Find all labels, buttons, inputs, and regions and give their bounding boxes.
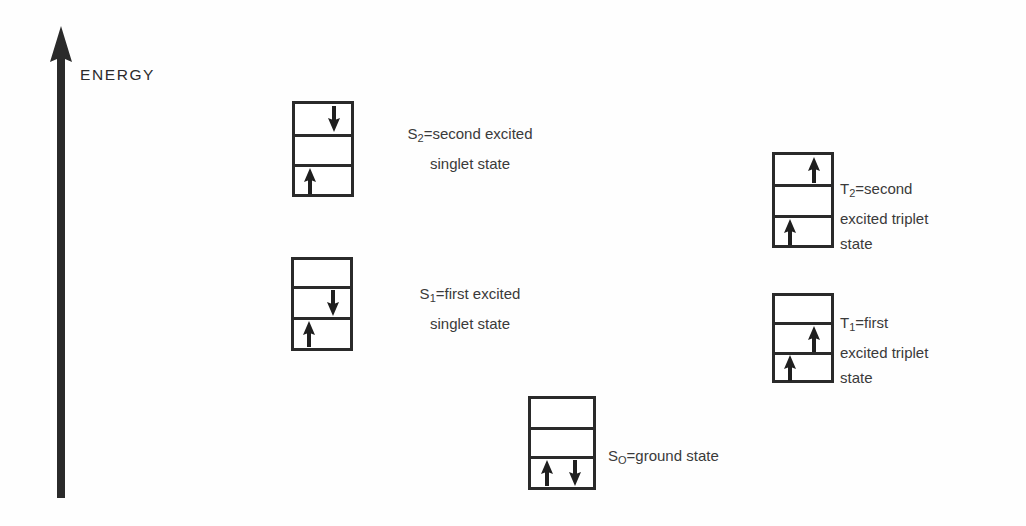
spin-down-arrow [325, 290, 341, 316]
orbital-box-s0 [528, 396, 596, 490]
caption-s2-text: =second excited [424, 125, 533, 142]
level-s0 [528, 396, 596, 490]
level-s2 [292, 101, 354, 197]
caption-t2-line3: state [840, 231, 1020, 256]
caption-t1-symbol: T [840, 314, 849, 331]
caption-s1-line2: singlet state [360, 311, 580, 336]
spin-up-arrow [806, 157, 822, 183]
energy-axis-arrow [44, 26, 78, 498]
caption-t1-line2: excited triplet [840, 340, 1020, 365]
orbital-box-s2 [292, 101, 354, 197]
spin-up-arrow [782, 355, 798, 381]
orbital-row-t1-bottom [775, 355, 831, 380]
caption-t2-line1: T2=second [840, 176, 1020, 206]
level-t2 [772, 152, 834, 248]
caption-t1-text: =first [855, 314, 888, 331]
caption-t2-line2: excited triplet [840, 206, 1020, 231]
spin-up-arrow [302, 168, 318, 194]
caption-s0-subscript: O [618, 454, 627, 466]
orbital-row-s2-middle [295, 137, 351, 167]
orbital-row-s1-top [294, 260, 350, 289]
caption-t2-text: =second [855, 180, 912, 197]
caption-s0-text: =ground state [627, 447, 719, 464]
orbital-row-s2-top [295, 104, 351, 137]
caption-t2-symbol: T [840, 180, 849, 197]
caption-t1: T1=first excited triplet state [840, 310, 1020, 390]
orbital-box-t2 [772, 152, 834, 248]
orbital-row-s0-middle [531, 430, 593, 459]
orbital-box-s1 [291, 257, 353, 351]
spin-up-arrow [539, 460, 555, 486]
caption-s1: S1=first excited singlet state [360, 281, 580, 336]
orbital-row-t2-middle [775, 187, 831, 218]
caption-s0: SO=ground state [608, 443, 868, 473]
caption-t1-line3: state [840, 365, 1020, 390]
caption-s0-symbol: S [608, 447, 618, 464]
orbital-row-t1-middle [775, 325, 831, 355]
level-s1 [291, 257, 353, 351]
caption-s1-line1: S1=first excited [360, 281, 580, 311]
spin-up-arrow [301, 321, 317, 347]
caption-t1-line1: T1=first [840, 310, 1020, 340]
caption-s0-line1: SO=ground state [608, 443, 868, 473]
energy-axis-label: ENERGY [80, 66, 155, 84]
spin-down-arrow [567, 460, 583, 486]
orbital-box-t1 [772, 293, 834, 383]
orbital-row-s1-bottom [294, 320, 350, 348]
caption-s2-line2: singlet state [360, 151, 580, 176]
spin-down-arrow [326, 106, 342, 132]
caption-s2-symbol: S [408, 125, 418, 142]
caption-s1-text: =first excited [436, 285, 521, 302]
orbital-row-s2-bottom [295, 167, 351, 194]
caption-s1-symbol: S [420, 285, 430, 302]
orbital-row-t1-top [775, 296, 831, 325]
level-t1 [772, 293, 834, 383]
orbital-row-t2-top [775, 155, 831, 187]
spin-up-arrow [782, 219, 798, 245]
orbital-row-s1-middle [294, 289, 350, 320]
caption-s2: S2=second excited singlet state [360, 121, 580, 176]
spin-up-arrow [806, 326, 822, 352]
orbital-row-s0-top [531, 399, 593, 430]
energy-level-diagram: ENERGY S2=second excited [0, 0, 1026, 526]
orbital-row-t2-bottom [775, 218, 831, 245]
orbital-row-s0-bottom [531, 459, 593, 487]
caption-t2: T2=second excited triplet state [840, 176, 1020, 256]
caption-s2-line1: S2=second excited [360, 121, 580, 151]
